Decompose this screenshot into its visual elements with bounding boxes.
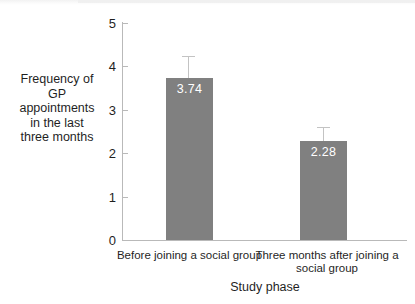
x-tick-label-three-months-after: Three months after joining a social grou… — [253, 249, 401, 275]
y-axis-title-line-1: Frequency of — [4, 72, 110, 87]
y-axis-title-line-5: three months — [4, 130, 110, 145]
y-tick-4 — [122, 66, 128, 67]
error-bar-stem-1 — [188, 56, 189, 78]
y-axis-title-line-4: in the last — [4, 116, 110, 131]
error-bar-stem-2 — [323, 127, 324, 141]
y-tick-2 — [122, 153, 128, 154]
y-tick-label-2: 2 — [94, 147, 116, 160]
y-tick-0 — [122, 240, 128, 241]
y-tick-label-wrap-3: 3 — [92, 110, 116, 111]
y-tick-label-wrap-1: 1 — [92, 197, 116, 198]
y-tick-label-wrap-5: 5 — [92, 23, 116, 24]
bar-value-label-1: 3.74 — [166, 82, 213, 96]
y-tick-3 — [122, 110, 128, 111]
bar-value-label-2: 2.28 — [300, 145, 347, 159]
bar-three-months-after: 2.28 — [300, 141, 347, 240]
x-tick-label-before-joining: Before joining a social group — [112, 249, 267, 262]
y-tick-label-4: 4 — [94, 60, 116, 73]
scan-artifact-band-secondary — [78, 0, 415, 3]
y-tick-label-wrap-0: 0 — [92, 240, 116, 241]
x-tick-label-2-line-1: Three months after joining a — [253, 249, 401, 262]
y-tick-1 — [122, 197, 128, 198]
y-tick-label-1: 1 — [94, 191, 116, 204]
y-axis-line — [122, 22, 123, 241]
y-axis-title-line-2: GP — [4, 87, 110, 102]
y-tick-label-3: 3 — [94, 104, 116, 117]
x-axis-title: Study phase — [122, 280, 408, 294]
y-tick-5 — [122, 23, 128, 24]
x-tick-label-2-line-2: social group — [253, 262, 401, 275]
bar-chart-figure: Frequency of GP appointments in the last… — [0, 0, 415, 304]
y-tick-label-wrap-2: 2 — [92, 153, 116, 154]
y-tick-label-wrap-4: 4 — [92, 66, 116, 67]
x-tick-label-1-line-1: Before joining a social group — [112, 249, 267, 262]
y-tick-label-0: 0 — [94, 234, 116, 247]
y-tick-label-5: 5 — [94, 17, 116, 30]
x-axis-line — [122, 240, 407, 241]
bar-before-joining: 3.74 — [166, 78, 213, 240]
